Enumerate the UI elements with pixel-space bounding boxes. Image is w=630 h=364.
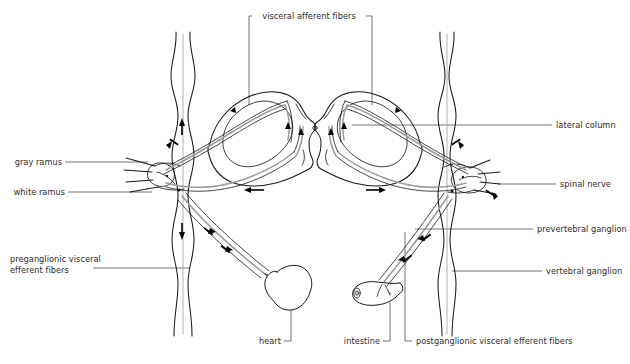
fiber-bundle-left-afferent — [164, 101, 287, 174]
arrow-chain-left-up — [179, 118, 185, 135]
label-lateral-column: lateral column — [556, 120, 616, 130]
label-vertebral-ganglion: vertebral ganglion — [546, 266, 622, 276]
fiber-bundle-left-return — [166, 152, 296, 191]
arrowhead-cord-left — [285, 122, 291, 129]
arrowhead-horn-right — [395, 107, 401, 113]
arrow-spinal-nerve-right — [451, 138, 464, 149]
label-visceral-afferent-fibers: visceral afferent fibers — [262, 11, 355, 21]
label-white-ramus: white ramus — [14, 187, 65, 197]
label-spinal-nerve: spinal nerve — [560, 179, 611, 189]
arrow-spinal-nerve-right-2 — [485, 189, 498, 200]
label-gray-ramus: gray ramus — [15, 157, 62, 167]
sympathetic-chain-right — [438, 32, 456, 336]
arrowhead-cord-right — [341, 122, 347, 129]
arrow-chain-left-down — [179, 223, 185, 240]
fiber-bundle-right-return — [336, 152, 466, 191]
anatomy-figure: visceral afferent fibers gray ramus whit… — [0, 0, 630, 364]
label-intestine: intestine — [344, 336, 380, 346]
label-prevertebral-ganglion: prevertebral ganglion — [537, 224, 627, 234]
arrow-to-intestine-1 — [417, 234, 431, 242]
label-preganglionic-fibers-line2: efferent fibers — [10, 265, 69, 275]
diagram-canvas: visceral afferent fibers gray ramus whit… — [0, 0, 630, 364]
label-postganglionic-fibers: postganglionic visceral efferent fibers — [416, 336, 573, 346]
arrow-cord-bottom-left — [244, 187, 264, 193]
right-ganglion-region — [444, 160, 500, 194]
spinal-cord-gray-matter — [208, 92, 422, 186]
arrow-cord-bottom-right — [366, 187, 386, 193]
heart-organ — [265, 265, 312, 310]
label-heart: heart — [259, 336, 282, 346]
label-preganglionic-fibers-line1: preganglionic visceral — [10, 254, 101, 264]
